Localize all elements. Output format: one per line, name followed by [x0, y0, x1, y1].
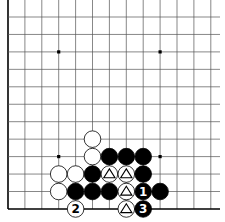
stone-disc	[84, 183, 101, 200]
stone-disc	[135, 148, 152, 165]
white-stone[interactable]	[84, 131, 101, 148]
star-point	[159, 50, 162, 53]
white-stone[interactable]	[50, 183, 67, 200]
stone-disc	[118, 148, 135, 165]
white-stone[interactable]	[67, 166, 84, 183]
stone-disc	[67, 166, 84, 183]
black-stone[interactable]	[67, 183, 84, 200]
white-stone-triangle-marked[interactable]	[118, 183, 135, 200]
stone-disc	[101, 183, 118, 200]
white-stone[interactable]	[50, 166, 67, 183]
stone-disc	[67, 183, 84, 200]
black-stone[interactable]	[101, 148, 118, 165]
move-number-label: 3	[139, 202, 147, 216]
white-stone[interactable]	[84, 148, 101, 165]
go-board: 123	[0, 0, 225, 222]
stone-disc	[50, 166, 67, 183]
stone-disc	[50, 183, 67, 200]
star-point	[57, 50, 60, 53]
black-stone[interactable]	[101, 183, 118, 200]
stone-disc	[101, 148, 118, 165]
white-stone-triangle-marked[interactable]	[101, 166, 118, 183]
star-point	[159, 155, 162, 158]
stone-disc	[84, 131, 101, 148]
white-stone-triangle-marked[interactable]	[118, 166, 135, 183]
black-stone[interactable]	[152, 183, 169, 200]
stone-disc	[84, 148, 101, 165]
white-stone-2[interactable]: 2	[67, 201, 84, 218]
black-stone-3[interactable]: 3	[135, 201, 152, 218]
white-stone-triangle-marked[interactable]	[118, 201, 135, 218]
black-stone[interactable]	[84, 183, 101, 200]
black-stone[interactable]	[118, 148, 135, 165]
move-number-label: 2	[71, 202, 79, 216]
black-stone-1[interactable]: 1	[135, 183, 152, 200]
move-number-label: 1	[139, 185, 147, 199]
black-stone[interactable]	[135, 148, 152, 165]
black-stone[interactable]	[135, 166, 152, 183]
stone-disc	[152, 183, 169, 200]
stone-disc	[84, 166, 101, 183]
star-point	[57, 155, 60, 158]
stone-disc	[135, 166, 152, 183]
black-stone[interactable]	[84, 166, 101, 183]
